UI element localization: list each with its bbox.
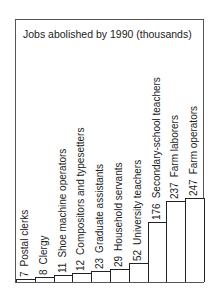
bar-value: 237 <box>169 183 180 200</box>
bar-label: 247Farm operators <box>188 106 199 196</box>
bar-value: 247 <box>188 179 199 196</box>
chart-title: Jobs abolished by 1990 (thousands) <box>23 28 192 40</box>
bar <box>72 273 92 282</box>
bar-label: 7Postal clerks <box>19 210 30 277</box>
bar <box>166 201 186 282</box>
bar <box>185 198 205 282</box>
bar <box>54 275 74 282</box>
bar-label: 29Household servants <box>113 162 124 267</box>
bar <box>16 279 36 282</box>
bar-value: 8 <box>38 269 49 275</box>
bar-label: 11Shoe machine operators <box>57 149 68 273</box>
bar-value: 29 <box>113 256 124 267</box>
bar-category: Graduate assistants <box>94 164 105 253</box>
bar <box>35 277 55 282</box>
bar-value: 11 <box>57 263 68 273</box>
bar-value: 12 <box>75 260 86 271</box>
bar-value: 176 <box>151 203 162 220</box>
bar-category: Compositors and typesetters <box>75 128 86 255</box>
bar-label: 8Clergy <box>38 236 49 275</box>
bar-category: Shoe machine operators <box>57 149 68 258</box>
bar-category: Farm laborers <box>169 115 180 177</box>
bar-category: Postal clerks <box>19 210 30 267</box>
bar-category: University teachers <box>132 160 143 245</box>
bar <box>110 269 130 282</box>
bar-label: 52University teachers <box>132 160 143 261</box>
bar-category: Farm operators <box>188 106 199 174</box>
bar-label: 237Farm laborers <box>169 115 180 199</box>
bar <box>91 271 111 282</box>
bar <box>148 222 168 282</box>
bar-value: 23 <box>94 258 105 269</box>
bar-value: 52 <box>132 250 143 261</box>
bar-label: 23Graduate assistants <box>94 164 105 269</box>
bar-label: 12Compositors and typesetters <box>75 128 86 271</box>
bar <box>129 263 149 282</box>
bar-category: Secondary-school teachers <box>151 77 162 198</box>
bar-category: Household servants <box>113 162 124 250</box>
bar-category: Clergy <box>38 236 49 265</box>
bar-label: 176Secondary-school teachers <box>151 77 162 220</box>
bar-value: 7 <box>19 271 30 277</box>
